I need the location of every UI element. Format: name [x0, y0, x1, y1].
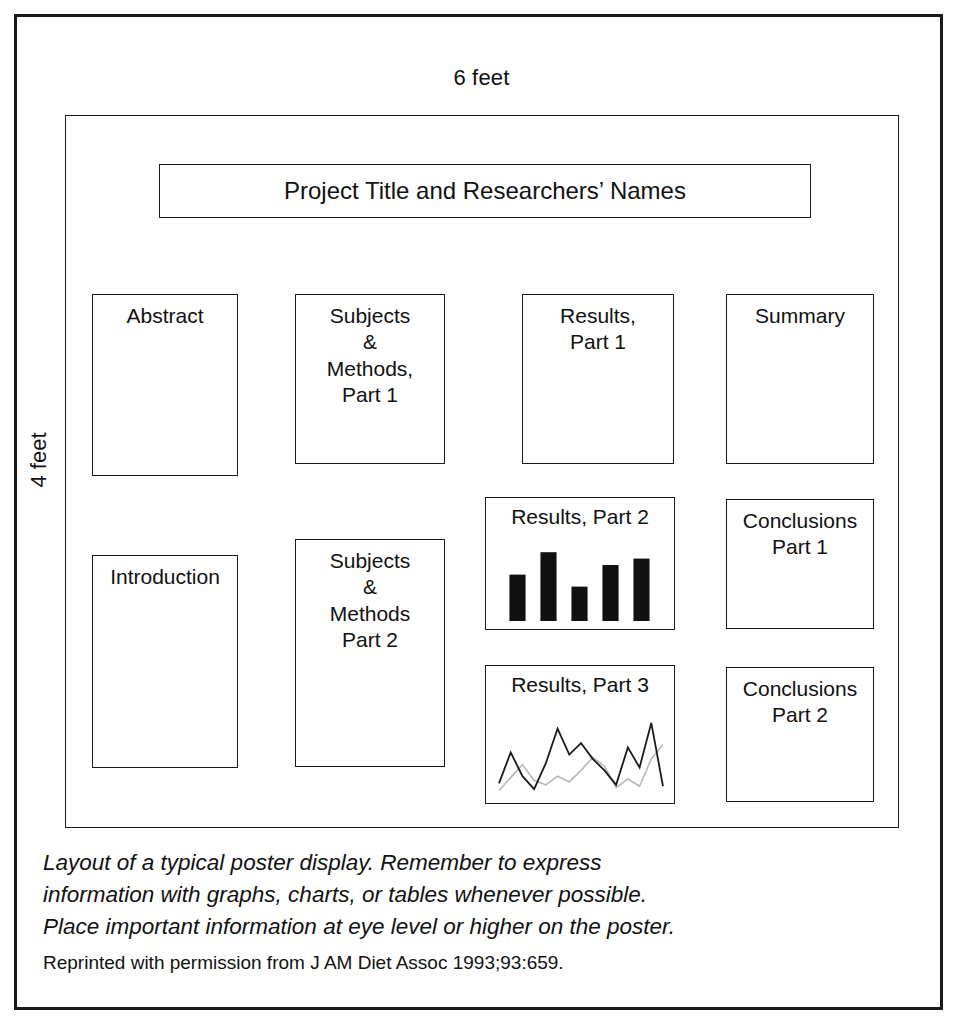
figure-outer-frame: 6 feet 4 feet Project Title and Research…	[14, 14, 943, 1010]
line-chart-icon	[494, 715, 668, 797]
bar	[633, 559, 649, 621]
poster-panel-conclusions-2-label: Conclusions Part 2	[727, 676, 873, 729]
bar	[602, 565, 618, 621]
poster-panel-subjects-methods-1: Subjects & Methods, Part 1	[295, 294, 445, 464]
poster-panel-results-2: Results, Part 2	[485, 497, 675, 630]
poster-panel-title: Project Title and Researchers’ Names	[159, 164, 811, 218]
poster-board: Project Title and Researchers’ Names Abs…	[65, 115, 899, 828]
bar-chart-icon	[502, 541, 657, 621]
poster-panel-summary-label: Summary	[727, 303, 873, 329]
bar	[540, 552, 556, 621]
line-chart-plot	[494, 715, 668, 797]
poster-panel-results-1-label: Results, Part 1	[523, 303, 673, 356]
poster-height-dimension-label: 4 feet	[26, 410, 52, 510]
line-series-series-light	[499, 744, 663, 790]
poster-panel-conclusions-1-label: Conclusions Part 1	[727, 508, 873, 561]
poster-panel-results-1: Results, Part 1	[522, 294, 674, 464]
poster-panel-introduction: Introduction	[92, 555, 238, 768]
poster-panel-subjects-methods-1-label: Subjects & Methods, Part 1	[296, 303, 444, 409]
figure-caption-line: information with graphs, charts, or tabl…	[43, 879, 863, 911]
poster-panel-abstract: Abstract	[92, 294, 238, 476]
poster-panel-title-label: Project Title and Researchers’ Names	[284, 176, 686, 206]
line-series-series-dark	[499, 723, 663, 789]
poster-panel-conclusions-2: Conclusions Part 2	[726, 667, 874, 802]
poster-panel-results-3: Results, Part 3	[485, 665, 675, 804]
figure-caption-line: Place important information at eye level…	[43, 911, 863, 943]
figure-attribution: Reprinted with permission from J AM Diet…	[43, 952, 903, 974]
poster-panel-conclusions-1: Conclusions Part 1	[726, 499, 874, 629]
poster-panel-introduction-label: Introduction	[93, 564, 237, 590]
poster-panel-subjects-methods-2-label: Subjects & Methods Part 2	[296, 548, 444, 654]
poster-panel-results-3-label: Results, Part 3	[486, 672, 674, 698]
figure-caption: Layout of a typical poster display. Reme…	[43, 847, 863, 943]
poster-panel-abstract-label: Abstract	[93, 303, 237, 329]
poster-panel-results-2-label: Results, Part 2	[486, 504, 674, 530]
poster-panel-subjects-methods-2: Subjects & Methods Part 2	[295, 539, 445, 767]
figure-caption-line: Layout of a typical poster display. Reme…	[43, 847, 863, 879]
poster-panel-summary: Summary	[726, 294, 874, 464]
poster-width-dimension-label: 6 feet	[17, 65, 946, 91]
bar	[509, 575, 525, 621]
bar	[571, 587, 587, 621]
bar-chart-plot	[502, 541, 657, 621]
